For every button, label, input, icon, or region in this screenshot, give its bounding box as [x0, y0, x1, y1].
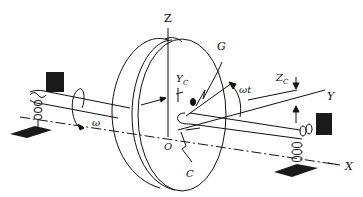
disk-back: [112, 38, 168, 188]
rotation-arrow: [72, 90, 80, 128]
x-axis-label: X: [344, 160, 354, 173]
left-bearing-block: [46, 72, 64, 92]
left-ground-plate: [10, 126, 52, 138]
zc-sub-label: C: [283, 78, 289, 86]
y-axis-label: Y: [327, 90, 336, 103]
rotor-diagram: Z G Y C ωt Z C Y ω O C X: [0, 0, 363, 197]
left-spring: [34, 101, 42, 129]
mass-center-g: [191, 99, 196, 106]
offset-zigzag-c: [181, 132, 192, 162]
omega-t-label: ωt: [239, 84, 252, 95]
omega-label: ω: [92, 117, 100, 128]
disk-front: [138, 39, 226, 191]
origin-label: O: [164, 141, 172, 152]
right-ground-plate: [274, 164, 318, 177]
right-bearing-block: [316, 113, 332, 135]
yc-sub-label: C: [183, 79, 189, 87]
c-label: C: [186, 168, 194, 179]
z-axis-label: Z: [164, 12, 172, 25]
y-axis-line: [178, 90, 325, 130]
g-label: G: [217, 40, 226, 53]
shaft-left: [30, 90, 130, 108]
